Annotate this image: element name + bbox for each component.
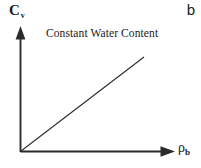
y-axis-arrow-icon — [16, 26, 26, 40]
y-axis-symbol: C — [9, 2, 20, 18]
x-axis-subscript: b — [185, 147, 190, 157]
x-axis-symbol: ρ — [178, 140, 185, 155]
x-axis-label: ρb — [178, 141, 190, 157]
series-annotation-label: Constant Water Content — [46, 28, 158, 40]
x-axis-arrow-icon — [161, 146, 176, 157]
plot-canvas — [0, 0, 201, 168]
y-axis-label: Cv — [9, 3, 25, 20]
panel-label: b — [187, 2, 195, 17]
data-series-line — [21, 57, 144, 151]
figure-panel: Cv ρb Constant Water Content b — [0, 0, 201, 168]
y-axis-subscript: v — [21, 11, 25, 20]
